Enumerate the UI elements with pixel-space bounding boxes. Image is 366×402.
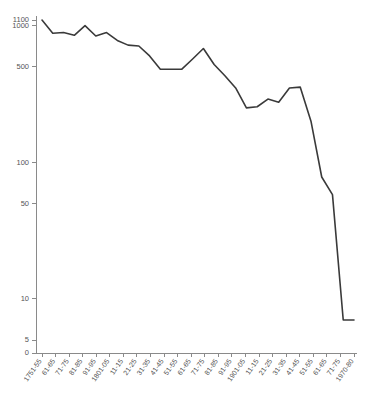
y-tick-label: 0	[25, 348, 29, 357]
y-tick-label: 5	[25, 335, 29, 344]
y-tick-label: 50	[21, 199, 29, 208]
line-chart: 05105010050010001100 1751-5561-6571-7581…	[0, 0, 366, 402]
series-line	[42, 20, 354, 320]
y-tick-label: 1100	[13, 15, 29, 24]
y-tick-label: 500	[16, 62, 29, 71]
chart-container: 05105010050010001100 1751-5561-6571-7581…	[0, 0, 366, 402]
y-tick-label: 10	[21, 294, 29, 303]
y-axis: 05105010050010001100	[12, 15, 36, 357]
x-axis: 1751-5561-6571-7581-8591-951801-0511-152…	[22, 353, 357, 383]
y-tick-label: 100	[16, 158, 29, 167]
series-group	[42, 20, 354, 320]
x-tick-label: 1751-55	[22, 357, 43, 382]
